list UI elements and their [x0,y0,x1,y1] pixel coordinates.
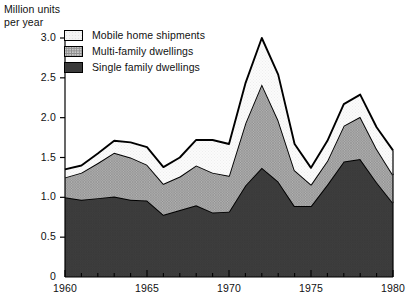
legend-label: Single family dwellings [92,61,200,73]
y-tick-label: 0 [26,270,56,282]
legend-item: Mobile home shipments [64,27,205,43]
legend-swatch-mobile-home-shipments [64,30,83,41]
chart-legend: Mobile home shipments Multi-family dwell… [64,27,205,75]
y-tick-label: 0.5 [26,230,56,242]
x-tick-label: 1970 [206,282,252,294]
x-tick-label: 1965 [124,282,170,294]
x-tick-label: 1975 [288,282,334,294]
y-tick-label: 1.5 [26,151,56,163]
legend-label: Mobile home shipments [92,29,205,41]
legend-label: Multi-family dwellings [92,45,193,57]
legend-swatch-single-family-dwellings [64,62,83,73]
x-tick-label: 1980 [370,282,409,294]
y-tick-label: 1.0 [26,190,56,202]
y-tick-label: 3.0 [26,31,56,43]
legend-item: Single family dwellings [64,59,205,75]
y-tick-label: 2.0 [26,111,56,123]
legend-item: Multi-family dwellings [64,43,205,59]
x-tick-label: 1960 [42,282,88,294]
chart-figure: Million units per year 00.51.01.52.02.53… [0,0,409,302]
y-tick-label: 2.5 [26,71,56,83]
legend-swatch-multi-family-dwellings [64,46,83,57]
